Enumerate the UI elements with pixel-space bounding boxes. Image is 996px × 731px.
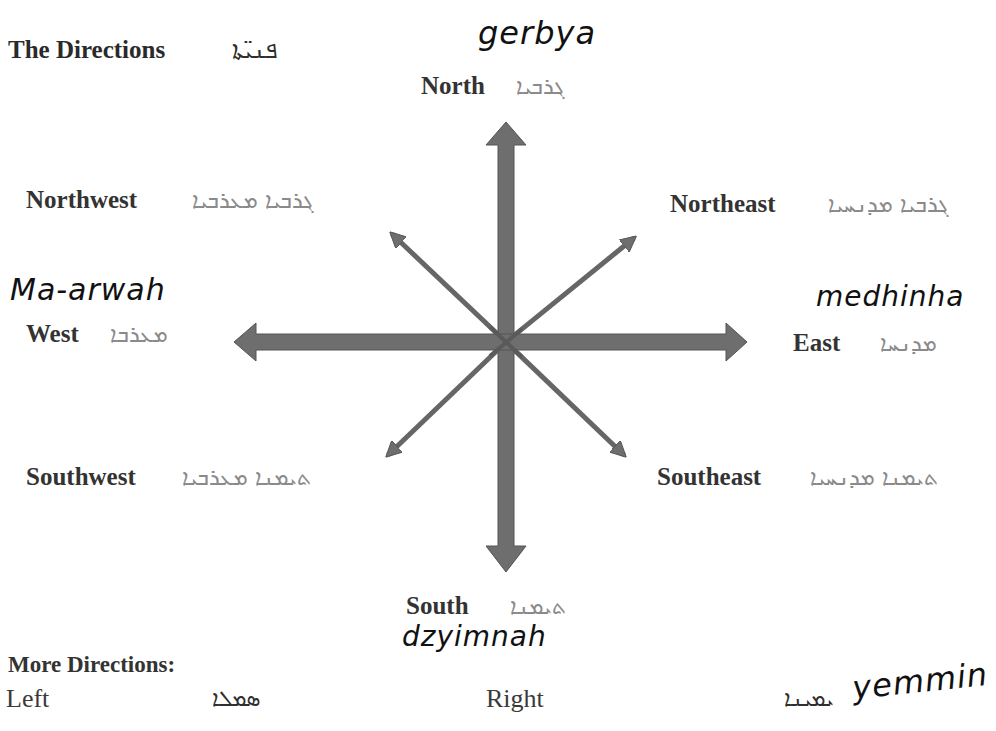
more-directions-heading: More Directions: <box>8 652 175 678</box>
east-syriac: ܡܕܢܚܐ <box>880 331 937 356</box>
right-label: Right <box>486 684 544 714</box>
south-label: South <box>406 592 469 620</box>
west-handwritten-note: Ma-arwah <box>10 272 166 307</box>
arrow-southwest-icon <box>388 342 506 455</box>
north-handwritten-note: gerbya <box>478 14 596 52</box>
arrow-northeast-icon <box>506 238 634 342</box>
left-label: Left <box>6 684 49 714</box>
west-label: West <box>26 320 79 348</box>
southeast-label: Southeast <box>657 463 761 491</box>
arrow-northwest-icon <box>392 234 506 342</box>
northeast-label: Northeast <box>670 190 776 218</box>
southwest-syriac: ܬܝܡܢܐ ܡܥܪܒܝܐ <box>182 465 311 490</box>
east-handwritten-note: medhinha <box>816 280 964 313</box>
south-syriac: ܬܝܡܢܐ <box>510 594 566 619</box>
west-syriac: ܡܥܪܒܐ <box>110 322 168 347</box>
north-syriac: ܓܪܒܝܐ <box>516 74 565 99</box>
northeast-syriac: ܓܪܒܝܐ ܡܕܢܚܝܐ <box>828 192 949 217</box>
right-syriac: ܝܡܝܢܐ <box>784 686 834 711</box>
northwest-syriac: ܓܪܒܝܐ ܡܥܪܒܝܐ <box>192 188 314 213</box>
arrow-southeast-icon <box>506 342 624 455</box>
northwest-label: Northwest <box>26 186 137 214</box>
southwest-label: Southwest <box>26 463 136 491</box>
south-handwritten-note: dzyimnah <box>402 620 547 653</box>
east-label: East <box>793 329 840 357</box>
north-label: North <box>421 72 485 100</box>
left-syriac: ܣܡܠܐ <box>212 686 261 711</box>
southeast-syriac: ܬܝܡܢܐ ܡܕܢܚܝܐ <box>810 465 938 490</box>
